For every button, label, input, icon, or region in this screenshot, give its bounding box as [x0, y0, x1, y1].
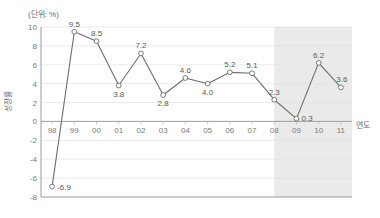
y-tick-label: 6 [33, 61, 38, 70]
x-tick-label: 04 [181, 126, 190, 135]
x-tick-label: 99 [70, 126, 79, 135]
data-point-marker [338, 85, 343, 90]
y-tick-label: 0 [33, 117, 38, 126]
y-tick-label: 10 [28, 23, 37, 32]
data-point-label: 5.1 [246, 61, 258, 70]
data-point-marker [183, 76, 188, 81]
data-point-marker [205, 81, 210, 86]
data-point-marker [50, 184, 55, 189]
data-point-marker [272, 97, 277, 102]
x-axis-title: 연도 [356, 121, 370, 130]
data-point-marker [227, 70, 232, 75]
data-point-marker [116, 83, 121, 88]
growth-rate-line-chart: 1086420-2-4-6-8 989900010203040506070809… [0, 0, 380, 218]
y-tick-label: 2 [33, 99, 38, 108]
data-point-label: 2.8 [158, 99, 170, 108]
y-axis-tick-labels: 1086420-2-4-6-8 [28, 23, 37, 202]
data-point-label: 8.5 [91, 29, 103, 38]
x-tick-label: 03 [159, 126, 168, 135]
y-axis-title: 성장률 [3, 91, 13, 112]
data-point-label: 5.2 [224, 60, 236, 69]
y-tick-label: -2 [30, 136, 38, 145]
y-tick-label: -8 [30, 193, 38, 202]
x-tick-label: 09 [292, 126, 301, 135]
x-tick-label: 10 [314, 126, 323, 135]
y-tick-label: -6 [30, 174, 38, 183]
x-tick-label: 11 [337, 126, 346, 135]
x-tick-label: 00 [92, 126, 101, 135]
x-tick-label: 08 [270, 126, 279, 135]
y-tick-label: -4 [30, 155, 38, 164]
data-point-label: 0.3 [301, 114, 313, 123]
x-tick-label: 02 [137, 126, 146, 135]
data-point-label: 3.6 [336, 75, 348, 84]
data-point-label: 2.3 [269, 88, 281, 97]
data-point-label: -6.9 [57, 183, 71, 192]
data-point-marker [72, 29, 77, 34]
data-point-label: 7.2 [135, 41, 147, 50]
y-tick-label: 8 [33, 42, 38, 51]
chart-canvas: 1086420-2-4-6-8 989900010203040506070809… [0, 0, 380, 218]
data-point-marker [139, 51, 144, 56]
data-point-marker [250, 71, 255, 76]
x-tick-label: 01 [114, 126, 123, 135]
data-point-label: 4.6 [180, 66, 192, 75]
data-point-marker [294, 116, 299, 121]
data-point-marker [161, 93, 166, 98]
data-point-marker [316, 60, 321, 65]
x-tick-label: 05 [203, 126, 212, 135]
data-point-label: 9.5 [69, 20, 81, 29]
data-point-label: 6.2 [313, 51, 325, 60]
x-tick-label: 07 [248, 126, 257, 135]
y-tick-label: 4 [33, 80, 38, 89]
x-tick-label: 98 [48, 126, 57, 135]
data-point-marker [94, 39, 99, 44]
data-point-label: 3.8 [113, 90, 125, 99]
data-point-label: 4.0 [202, 88, 214, 97]
unit-note: (단위: %) [28, 9, 59, 19]
x-tick-label: 06 [225, 126, 234, 135]
